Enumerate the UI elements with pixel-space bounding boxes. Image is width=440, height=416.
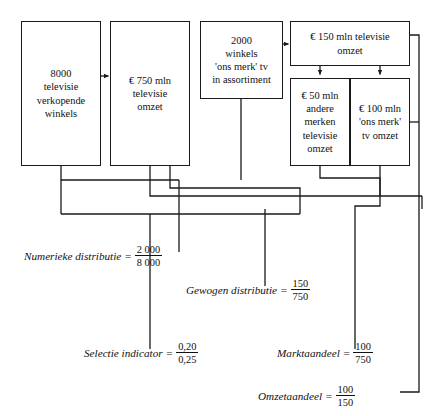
formula-omzetaandeel-numerator: 100 bbox=[336, 384, 356, 396]
formula-selectie-fraction: 0,20 0,25 bbox=[176, 341, 198, 365]
formula-gewogen-numerator: 150 bbox=[291, 278, 311, 290]
box-omzet-andere-merken: € 50 mln andere merken televisie omzet bbox=[290, 78, 350, 166]
wire-selectie-upper bbox=[170, 166, 300, 214]
formula-marktaandeel-equals: = bbox=[343, 347, 351, 359]
box-omzet-ons-merk-text: € 100 mln 'ons merk' tv omzet bbox=[356, 102, 404, 142]
formula-gewogen-denominator: 750 bbox=[291, 289, 311, 302]
box-winkels-totaal: 8000 televisie verkopende winkels bbox=[21, 21, 101, 166]
box-winkels-ons-merk-text: 2000 winkels 'ons merk' tv in assortimen… bbox=[209, 34, 274, 87]
formula-numerieke-fraction: 2 000 8 000 bbox=[135, 244, 162, 268]
formula-selectie-numerator: 0,20 bbox=[176, 341, 198, 353]
formula-selectie-equals: = bbox=[166, 347, 174, 359]
formula-numerieke-label: Numerieke distributie bbox=[24, 250, 121, 262]
box-omzet-totaal: € 750 mln televisie omzet bbox=[110, 21, 190, 166]
formula-numerieke-denominator: 8 000 bbox=[135, 255, 162, 268]
wire-u-connector-sub bbox=[320, 166, 380, 196]
formula-marktaandeel-fraction: 100 750 bbox=[353, 341, 373, 365]
box-winkels-ons-merk: 2000 winkels 'ons merk' tv in assortimen… bbox=[200, 21, 283, 99]
formula-marktaandeel-denominator: 750 bbox=[353, 352, 373, 365]
formula-omzetaandeel: Omzetaandeel = 100 150 bbox=[258, 384, 355, 408]
formula-numerieke-numerator: 2 000 bbox=[135, 244, 162, 256]
box-omzet-selectie-text: € 150 mln televisie omzet bbox=[307, 30, 392, 56]
formula-omzetaandeel-label: Omzetaandeel bbox=[258, 390, 322, 402]
box-omzet-totaal-text: € 750 mln televisie omzet bbox=[126, 74, 174, 114]
diagram-canvas: 8000 televisie verkopende winkels € 750 … bbox=[0, 0, 440, 416]
formula-gewogen-distributie: Gewogen distributie = 150 750 bbox=[186, 278, 310, 302]
formula-omzetaandeel-fraction: 100 150 bbox=[336, 384, 356, 408]
formula-selectie-indicator: Selectie indicator = 0,20 0,25 bbox=[84, 341, 198, 365]
formula-marktaandeel-label: Marktaandeel bbox=[277, 347, 340, 359]
formula-gewogen-fraction: 150 750 bbox=[291, 278, 311, 302]
box-omzet-ons-merk: € 100 mln 'ons merk' tv omzet bbox=[350, 78, 410, 166]
formula-marktaandeel: Marktaandeel = 100 750 bbox=[277, 341, 373, 365]
formula-selectie-label: Selectie indicator bbox=[84, 347, 163, 359]
wire-winkels-totaal-down bbox=[61, 166, 179, 180]
formula-omzetaandeel-denominator: 150 bbox=[336, 395, 356, 408]
box-omzet-selectie: € 150 mln televisie omzet bbox=[290, 21, 410, 66]
box-omzet-andere-merken-text: € 50 mln andere merken televisie omzet bbox=[299, 89, 342, 155]
wire-marktaandeel-stem bbox=[355, 166, 380, 349]
formula-numerieke-distributie: Numerieke distributie = 2 000 8 000 bbox=[24, 244, 162, 268]
formula-selectie-denominator: 0,25 bbox=[176, 352, 198, 365]
formula-marktaandeel-numerator: 100 bbox=[353, 341, 373, 353]
formula-gewogen-equals: = bbox=[280, 284, 288, 296]
wire-omzet750-down bbox=[150, 166, 422, 196]
formula-numerieke-equals: = bbox=[124, 250, 132, 262]
formula-omzetaandeel-equals: = bbox=[325, 390, 333, 402]
box-winkels-totaal-text: 8000 televisie verkopende winkels bbox=[34, 67, 88, 120]
formula-gewogen-label: Gewogen distributie bbox=[186, 284, 277, 296]
